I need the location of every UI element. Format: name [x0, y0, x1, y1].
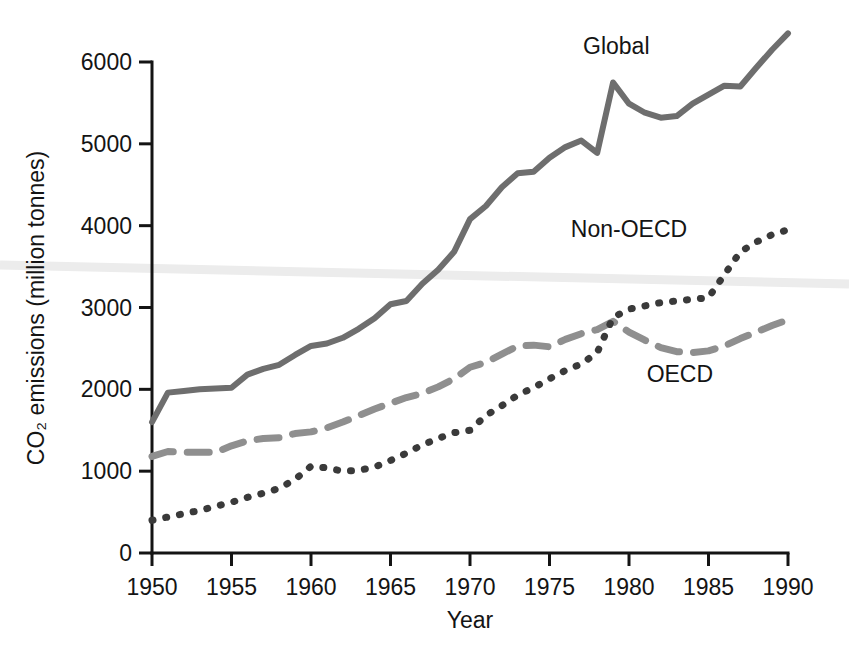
x-tick-label: 1980	[603, 574, 654, 600]
y-axis-tick-labels: 0100020003000400050006000	[81, 49, 132, 566]
y-tick-label: 5000	[81, 131, 132, 157]
y-tick-label: 2000	[81, 376, 132, 402]
y-tick-label: 6000	[81, 49, 132, 75]
x-axis-tick-labels: 195019551960196519701975198019851990	[126, 574, 813, 600]
series-annotations: GlobalOECDNon-OECD	[571, 33, 713, 386]
x-tick-label: 1950	[126, 574, 177, 600]
y-tick-label: 0	[119, 540, 132, 566]
y-axis-title: CO₂ emissions (million tonnes)	[23, 151, 49, 465]
x-tick-label: 1975	[524, 574, 575, 600]
x-tick-label: 1970	[444, 574, 495, 600]
series-line-oecd	[152, 320, 788, 457]
x-tick-label: 1955	[206, 574, 257, 600]
y-axis-ticks	[139, 62, 152, 553]
x-axis-title: Year	[447, 607, 494, 633]
y-tick-label: 3000	[81, 295, 132, 321]
x-tick-label: 1990	[762, 574, 813, 600]
y-tick-label: 1000	[81, 458, 132, 484]
x-tick-label: 1965	[365, 574, 416, 600]
chart-figure: 0100020003000400050006000 19501955196019…	[0, 0, 849, 653]
series-label-global: Global	[583, 33, 649, 59]
series-label-oecd: OECD	[647, 361, 713, 387]
x-tick-label: 1960	[285, 574, 336, 600]
y-tick-label: 4000	[81, 213, 132, 239]
x-tick-label: 1985	[683, 574, 734, 600]
series-label-non-oecd: Non-OECD	[571, 216, 687, 242]
co2-emissions-line-chart: 0100020003000400050006000 19501955196019…	[0, 0, 849, 653]
x-axis-ticks	[152, 553, 788, 566]
